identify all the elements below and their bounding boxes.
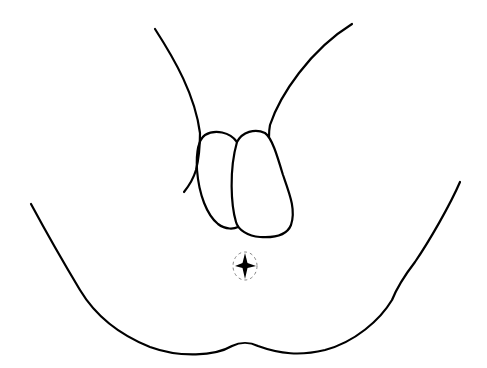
left-thigh-line [155,29,200,192]
illustration-canvas [0,0,487,368]
line-drawing [0,0,487,368]
right-oval-shape [232,131,293,237]
right-thigh-line [269,24,352,137]
anus-star-icon [235,253,256,279]
